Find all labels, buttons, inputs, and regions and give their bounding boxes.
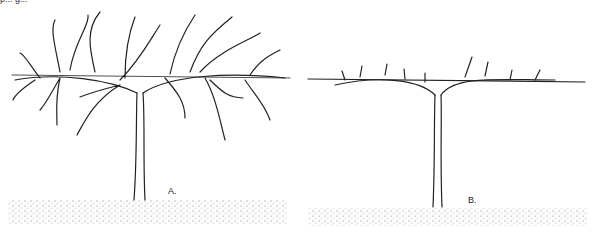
panel-b — [308, 57, 585, 207]
panel-label-b: B. — [468, 195, 477, 205]
panel-a — [12, 12, 290, 200]
panel-label-a: A. — [168, 186, 177, 196]
vine-illustration — [0, 0, 595, 234]
